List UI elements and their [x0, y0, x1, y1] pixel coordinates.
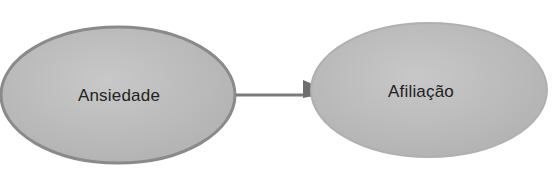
node-label-ansiedade: Ansiedade [78, 86, 160, 106]
node-label-afiliacao: Afiliação [388, 82, 454, 102]
diagram-canvas: Ansiedade Afiliação [0, 0, 554, 172]
